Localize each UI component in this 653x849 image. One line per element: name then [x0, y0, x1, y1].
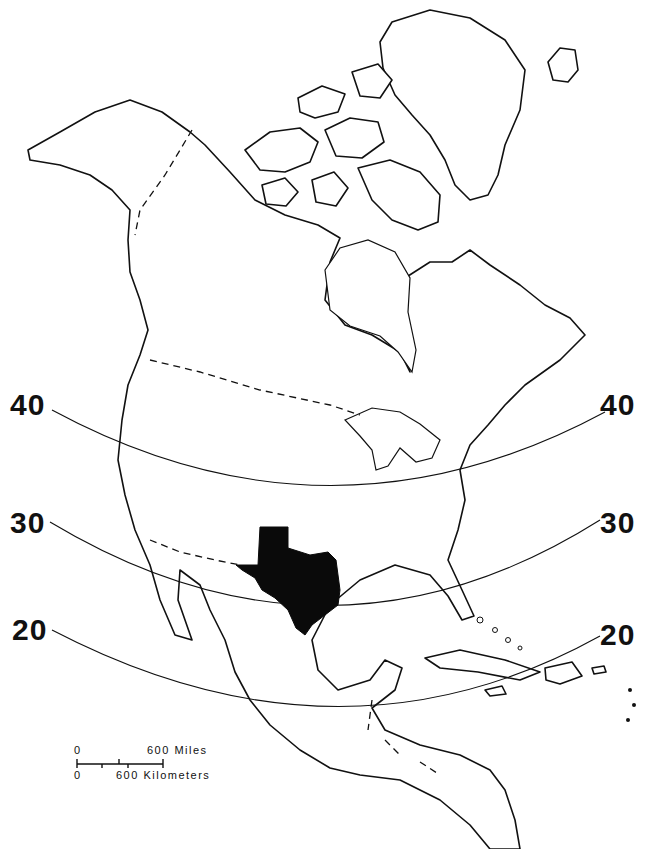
mainland-outline: [28, 100, 585, 849]
scale-km-label: 600 Kilometers: [116, 769, 210, 781]
scale-miles-zero: 0: [74, 744, 82, 756]
north-america-map: [0, 0, 653, 849]
cuba-outline: [425, 650, 540, 680]
puerto-rico-outline: [592, 666, 606, 674]
arctic-island: [298, 86, 345, 118]
latitude-label-30-left: 30: [10, 506, 45, 540]
arctic-island: [262, 178, 298, 206]
hispaniola-outline: [545, 662, 582, 684]
latitude-label-20-left: 20: [12, 613, 47, 647]
latitude-label-30-right: 30: [600, 506, 635, 540]
latitude-label-40-right: 40: [600, 388, 635, 422]
arctic-island: [245, 128, 318, 172]
scale-bar: [77, 759, 163, 768]
latitude-label-40-left: 40: [10, 388, 45, 422]
jamaica-outline: [485, 686, 506, 696]
baffin-island: [358, 160, 440, 230]
arctic-island: [312, 172, 348, 206]
iceland-outline: [548, 48, 578, 82]
scale-miles-label: 600 Miles: [147, 744, 208, 756]
arctic-island: [325, 118, 384, 158]
scale-km-zero: 0: [74, 769, 82, 781]
latitude-label-20-right: 20: [600, 618, 635, 652]
